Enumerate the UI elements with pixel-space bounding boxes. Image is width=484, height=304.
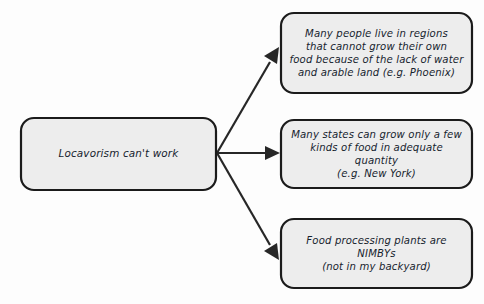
root-node-label: Locavorism can't work — [21, 118, 216, 190]
diagram-canvas: Locavorism can't work Many people live i… — [0, 0, 484, 304]
arrowhead-branch-0 — [264, 47, 279, 64]
connector-root-to-branch-2 — [217, 153, 279, 260]
branch-node-1-label: Many states can grow only a few kinds of… — [281, 120, 472, 188]
branch-node-2-label: Food processing plants are NIMBYs (not i… — [281, 219, 472, 288]
connector-root-to-branch-0 — [217, 47, 279, 153]
arrowhead-branch-2 — [264, 243, 279, 260]
branch-node-0-label: Many people live in regions that cannot … — [281, 13, 472, 93]
arrowhead-branch-1 — [265, 146, 280, 160]
connector-root-to-branch-1 — [217, 146, 280, 160]
